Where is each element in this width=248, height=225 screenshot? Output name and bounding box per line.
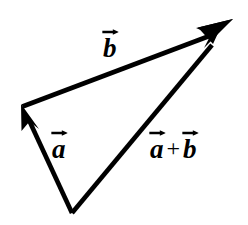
accented-b: b [103, 26, 117, 62]
label-vector-a-glyph: a [52, 136, 66, 163]
accented-a: a [52, 127, 66, 163]
accented-sum-b: b [183, 127, 197, 163]
label-sum-left-glyph: a [150, 136, 164, 163]
label-vector-a-plus-b: a + b [150, 127, 197, 163]
accented-sum-a: a [150, 127, 164, 163]
label-vector-b-glyph: b [103, 35, 117, 62]
label-vector-a: a [52, 127, 66, 163]
label-sum-operator: + [164, 136, 184, 160]
vector-diagram-canvas [0, 0, 248, 225]
vector-addition-diagram: b a a + b [0, 0, 248, 225]
label-sum-right-glyph: b [183, 136, 197, 163]
label-vector-b: b [103, 26, 117, 62]
